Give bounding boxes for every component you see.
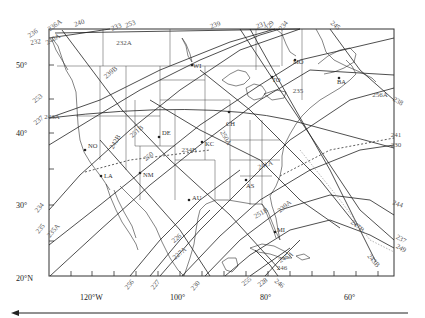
track-label: 253 xyxy=(31,92,45,105)
arrow-left-icon xyxy=(11,310,19,316)
track-label: 230 xyxy=(391,141,402,149)
station-label-mo: MO xyxy=(293,58,304,65)
track-label: 232 xyxy=(30,37,42,47)
lat-label-30: 30° xyxy=(16,201,27,210)
track-label: 241A xyxy=(257,159,274,172)
track-label: 253 xyxy=(124,18,137,29)
track-label: 256A xyxy=(372,91,388,99)
lon-label-120w: 120°W xyxy=(80,293,103,302)
station-label-ch: CH xyxy=(226,120,235,127)
hurricane-track-map: DE KC NM LA NO AU AS MO TO BA WI MI CH 2… xyxy=(0,0,425,318)
station-label-de: DE xyxy=(162,129,171,136)
track-label: 250A xyxy=(218,129,233,146)
track-label: 255 xyxy=(240,275,254,288)
station-labels: DE KC NM LA NO AU AS MO TO BA WI MI CH xyxy=(88,58,346,233)
lon-label-80: 80° xyxy=(260,293,271,302)
track-label: 239A xyxy=(276,198,293,214)
track-label: 227 xyxy=(149,278,162,292)
track-label: 240A xyxy=(44,32,61,47)
longitude-labels: 120°W 100° 80° 60° xyxy=(80,293,355,302)
track-label: 246 xyxy=(273,277,287,290)
station-label-ba: BA xyxy=(337,78,346,85)
track-label: 234 xyxy=(33,201,46,215)
track-label: 240 xyxy=(73,17,86,28)
track-label: 243B xyxy=(366,252,382,269)
track-label: 244 xyxy=(391,199,404,210)
station-label-nm: NM xyxy=(143,171,154,178)
direction-arrow xyxy=(11,310,408,316)
track-label: 245A xyxy=(277,250,294,265)
track-label: 234B xyxy=(181,146,197,154)
track-label: 234 xyxy=(277,19,290,33)
track-label: 241 xyxy=(391,131,402,139)
lon-label-60: 60° xyxy=(344,293,355,302)
track-label: 251B xyxy=(128,123,145,139)
station-label-au: AU xyxy=(192,194,202,201)
track-label: 250 xyxy=(142,150,156,163)
station-label-wi: WI xyxy=(193,62,201,69)
track-label: 242B xyxy=(108,133,123,150)
track-label: 256 xyxy=(123,278,136,292)
track-label: 235 xyxy=(293,87,304,95)
track-label: 236A xyxy=(46,18,63,33)
track-label: 228 xyxy=(256,276,270,289)
track-label: 238 xyxy=(391,95,405,107)
station-label-mi: MI xyxy=(277,226,285,233)
track-label: 232A xyxy=(116,39,132,47)
lat-label-50: 50° xyxy=(16,61,27,70)
track-label: 251B xyxy=(252,206,269,221)
track-label: 239B xyxy=(102,64,119,80)
station-label-la: LA xyxy=(104,172,113,179)
lon-label-100: 100° xyxy=(170,293,185,302)
track-label: 226 xyxy=(170,232,184,245)
station-label-to: TO xyxy=(272,76,281,83)
track-label: 243A xyxy=(44,113,60,121)
station-label-as: AS xyxy=(246,182,255,189)
track-label: 233 xyxy=(110,21,123,32)
latitude-labels: 50° 40° 30° 20°N xyxy=(16,61,33,283)
lat-label-40: 40° xyxy=(16,129,27,138)
station-label-no: NO xyxy=(88,142,98,149)
frame-ticks xyxy=(49,65,378,276)
track-label: 230 xyxy=(189,279,202,293)
track-label: 246 xyxy=(277,264,288,272)
lat-label-20n: 20°N xyxy=(16,274,33,283)
track-label: 249 xyxy=(394,242,408,254)
station-label-kc: KC xyxy=(205,140,214,147)
